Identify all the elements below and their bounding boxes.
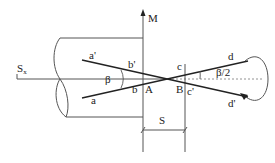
cylinder-break-curve-1	[54, 38, 68, 117]
label-beta: β	[105, 73, 111, 85]
label-M: M	[148, 12, 158, 24]
label-A: A	[145, 83, 153, 95]
label-beta-half: β/2	[216, 66, 230, 78]
label-c: c	[177, 60, 182, 72]
label-a-prime: a'	[89, 49, 96, 61]
rotation-arrow	[245, 57, 268, 101]
label-c-prime: c'	[187, 85, 194, 97]
label-S: S	[159, 114, 165, 126]
label-Sx: Sx	[17, 62, 27, 76]
label-a: a	[91, 94, 96, 106]
label-b: b	[132, 83, 138, 95]
cylinder-break-curve-2	[56, 79, 66, 117]
arrow-up-icon	[141, 9, 146, 16]
label-d-prime: d'	[228, 97, 236, 109]
label-B: B	[176, 83, 183, 95]
mechanism-diagram: M Sx β β/2 a' a b' b A B c c' d d' S	[0, 0, 275, 163]
label-d: d	[228, 50, 234, 62]
label-b-prime: b'	[128, 58, 136, 70]
cylinder	[54, 38, 143, 117]
